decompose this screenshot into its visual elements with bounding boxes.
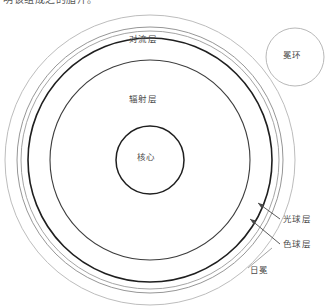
label-core: 核心	[137, 153, 156, 162]
label-convection-zone: 对流层	[129, 35, 157, 44]
label-radiative-zone: 辐射层	[129, 95, 157, 104]
label-photosphere: 光球层	[283, 215, 311, 224]
sun-structure-illustration	[0, 0, 327, 306]
label-corona: 日冕	[250, 266, 269, 275]
label-coronal-loop: 冕环	[283, 51, 302, 60]
diagram-canvas: 明该组成之的脂汗。 对流层 辐射层 核心	[0, 0, 327, 306]
label-chromosphere: 色球层	[283, 240, 311, 249]
